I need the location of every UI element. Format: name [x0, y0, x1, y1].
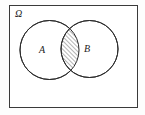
set-b-label: B	[84, 43, 90, 54]
venn-diagram-canvas: Ω A B	[0, 0, 145, 115]
omega-universe-label: Ω	[15, 8, 22, 19]
set-a-label: A	[38, 44, 46, 55]
venn-diagram-figure: Ω A B	[0, 0, 145, 115]
